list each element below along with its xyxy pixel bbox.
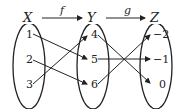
function-f-label: f [59, 4, 66, 17]
z-element-neg1: −1 [153, 53, 169, 66]
f-mapping-2-to-6 [33, 60, 87, 84]
function-mapping-diagram: X Y Z f g 1 2 3 4 5 6 −2 −1 0 [0, 0, 190, 109]
f-mapping-3-to-4 [33, 36, 87, 84]
x-element-3: 3 [26, 78, 33, 91]
x-element-2: 2 [26, 53, 33, 66]
x-element-1: 1 [26, 28, 33, 41]
z-element-0: 0 [159, 78, 166, 91]
z-element-neg2: −2 [153, 28, 169, 41]
function-g-label: g [124, 4, 131, 17]
set-y-label: Y [87, 10, 97, 25]
y-element-6: 6 [91, 78, 98, 91]
set-z-label: Z [149, 10, 160, 25]
diagram-canvas: X Y Z f g 1 2 3 4 5 6 −2 −1 0 [0, 0, 190, 109]
y-element-4: 4 [91, 28, 98, 41]
set-x-label: X [22, 10, 33, 25]
y-element-5: 5 [91, 53, 98, 66]
